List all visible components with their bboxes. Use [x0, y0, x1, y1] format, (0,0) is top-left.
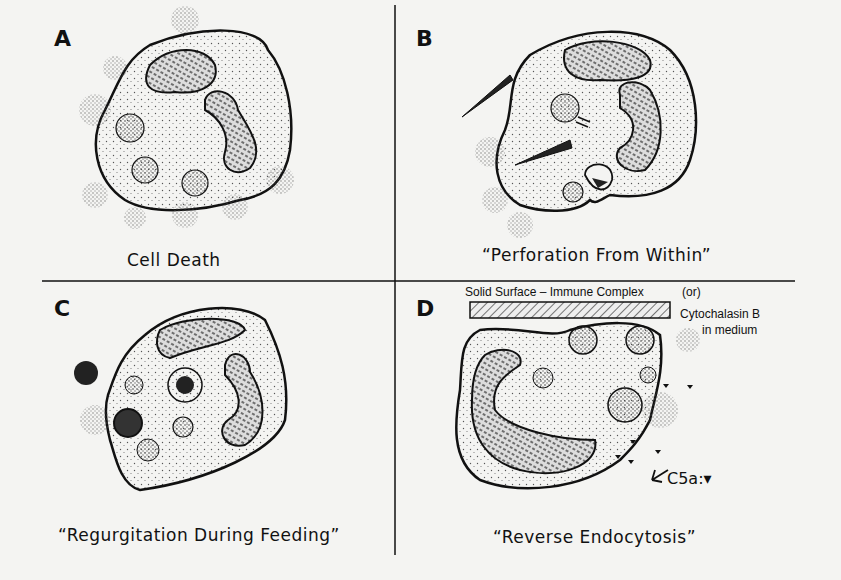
panel-letter-d: D: [416, 296, 434, 321]
figure: A B C D Cell Death “Perforation From Wit…: [0, 0, 841, 580]
cytochalasin-label: Cytochalasin B: [680, 307, 760, 321]
arrow-icon: [652, 470, 668, 482]
immune-complex-surface: [470, 302, 670, 318]
medium-label: in medium: [702, 323, 757, 337]
diagram-artwork: [0, 0, 841, 580]
panel-a-cell: [79, 6, 294, 229]
caption-b: “Perforation From Within”: [482, 245, 711, 265]
panel-letter-c: C: [54, 296, 70, 321]
panel-d-cell: [456, 302, 700, 488]
caption-d: “Reverse Endocytosis”: [493, 527, 696, 547]
panel-letter-a: A: [54, 26, 71, 51]
or-label: (or): [682, 285, 701, 299]
panel-letter-b: B: [416, 26, 433, 51]
c5a-label: C5a:▾: [667, 469, 712, 488]
surface-label: Solid Surface – Immune Complex: [465, 285, 644, 299]
caption-a: Cell Death: [127, 250, 221, 270]
caption-c: “Regurgitation During Feeding”: [58, 525, 340, 545]
panel-b-cell: [462, 32, 696, 238]
panel-c-cell: [74, 308, 286, 490]
